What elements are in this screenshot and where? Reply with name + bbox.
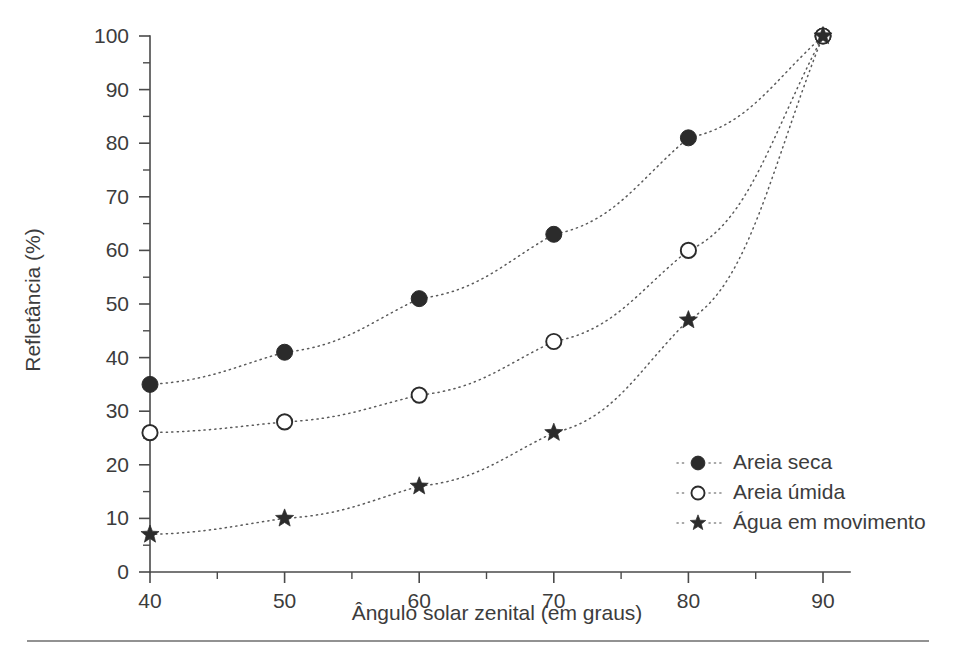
legend-item[interactable]: Areia seca	[677, 450, 833, 473]
star-icon	[545, 423, 563, 440]
reflectance-line-chart: 0102030405060708090100 405060708090 Arei…	[0, 0, 953, 660]
star-icon	[276, 509, 294, 526]
y-tick-label: 10	[106, 506, 129, 529]
filled-circle-icon	[680, 130, 696, 146]
chart-figure: 0102030405060708090100 405060708090 Arei…	[0, 0, 953, 660]
open-circle-icon	[681, 243, 696, 258]
y-tick-label: 90	[106, 78, 129, 101]
filled-circle-icon	[691, 456, 705, 470]
y-tick-label: 70	[106, 185, 129, 208]
legend-item[interactable]: Água em movimento	[677, 510, 926, 533]
x-axis-title: Ângulo solar zenital (em graus)	[352, 601, 643, 624]
y-tick-label: 30	[106, 399, 129, 422]
series-star	[141, 27, 832, 543]
series-open-circle	[142, 28, 830, 440]
y-tick-label: 40	[106, 346, 129, 369]
y-tick-label: 100	[94, 24, 129, 47]
y-tick-label: 50	[106, 292, 129, 315]
open-circle-icon	[277, 414, 292, 429]
x-tick-label: 90	[811, 589, 834, 612]
open-circle-icon	[691, 486, 704, 499]
x-tick-label: 40	[138, 589, 161, 612]
series-line-star	[150, 36, 823, 534]
open-circle-icon	[142, 425, 157, 440]
y-tick-label: 20	[106, 453, 129, 476]
y-axis: 0102030405060708090100	[94, 24, 150, 583]
series-line-filled-circle	[150, 36, 823, 384]
series-filled-circle	[142, 28, 831, 392]
star-icon	[690, 515, 706, 530]
x-tick-label: 50	[273, 589, 296, 612]
y-axis-title: Refletância (%)	[21, 228, 44, 372]
legend-label: Areia seca	[733, 450, 833, 473]
open-circle-icon	[412, 388, 427, 403]
star-icon	[679, 311, 697, 328]
legend-label: Areia úmida	[733, 480, 845, 503]
y-tick-label: 60	[106, 238, 129, 261]
y-tick-label: 80	[106, 131, 129, 154]
filled-circle-icon	[277, 344, 293, 360]
data-series-group	[141, 27, 832, 543]
open-circle-icon	[546, 334, 561, 349]
filled-circle-icon	[546, 226, 562, 242]
filled-circle-icon	[411, 291, 427, 307]
series-line-open-circle	[150, 36, 823, 433]
legend-item[interactable]: Areia úmida	[677, 480, 845, 503]
filled-circle-icon	[142, 376, 158, 392]
y-tick-label: 0	[117, 560, 129, 583]
star-icon	[410, 477, 428, 494]
chart-legend: Areia secaAreia úmidaÁgua em movimento	[677, 450, 926, 533]
legend-label: Água em movimento	[733, 510, 926, 533]
x-tick-label: 80	[677, 589, 700, 612]
